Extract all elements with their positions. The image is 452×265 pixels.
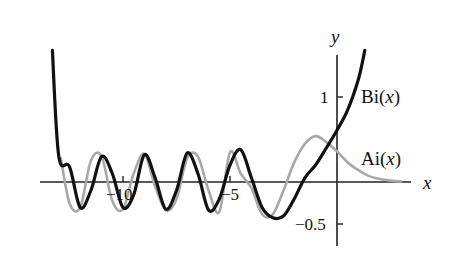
y-tick-label-minus-0.5: −0.5 bbox=[295, 215, 326, 234]
x-tick-label-minus-10: −10 bbox=[106, 185, 133, 204]
ai-label-prefix: Ai( bbox=[361, 148, 386, 170]
ai-label-close: ) bbox=[395, 148, 401, 170]
x-axis-label: x bbox=[422, 172, 432, 193]
ai-label: Ai(x) bbox=[361, 148, 401, 170]
y-tick-label-1: 1 bbox=[320, 88, 329, 107]
bi-label: Bi(x) bbox=[361, 86, 400, 108]
y-axis-label: y bbox=[329, 26, 340, 47]
bi-label-close: ) bbox=[394, 86, 400, 108]
airy-function-chart: −10 −5 1 −0.5 y x Bi(x) Ai(x) bbox=[0, 0, 452, 265]
x-tick-label-minus-5: −5 bbox=[221, 185, 239, 204]
bi-label-prefix: Bi( bbox=[361, 86, 385, 108]
